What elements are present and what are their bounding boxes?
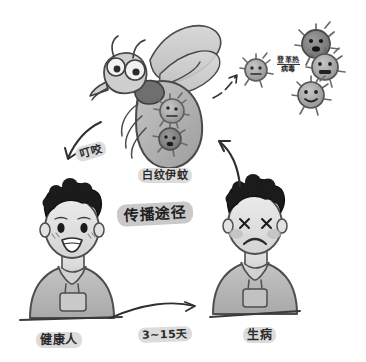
healthy-person-pocket — [60, 293, 86, 311]
virus-particle-3 — [306, 48, 345, 87]
label-dengue-virus-line2: 病毒 — [277, 64, 300, 73]
label-transmission-route: 传播途径 — [117, 200, 194, 225]
label-incubation-period: 3~15天 — [138, 324, 192, 342]
arrow-healthy-to-sick — [110, 302, 195, 318]
label-sick-person: 生病 — [243, 325, 276, 342]
sick-person-pocket — [243, 289, 267, 307]
diagram-canvas: 叮咬 登革热 病毒 白纹伊蚊 传播途径 健康人 生病 3~15天 — [0, 0, 366, 362]
label-dengue-virus-line1: 登革热 — [277, 56, 300, 64]
arrow-sick-to-mosquito — [219, 141, 240, 186]
label-healthy-person: 健康人 — [36, 330, 82, 347]
arrow-mosquito-to-virus — [213, 75, 237, 98]
label-mosquito: 白纹伊蚊 — [138, 166, 192, 182]
sick-person-figure — [210, 174, 300, 317]
virus-particle-1 — [240, 53, 273, 87]
mosquito-figure — [90, 26, 221, 169]
label-dengue-virus: 登革热 病毒 — [277, 56, 300, 73]
healthy-person-eye-right — [80, 223, 87, 233]
virus-particle-4 — [292, 76, 331, 115]
healthy-person-figure — [20, 178, 122, 320]
healthy-person-eye-left — [57, 223, 64, 233]
